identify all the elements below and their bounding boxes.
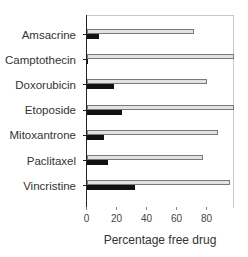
- bar-series-2: [87, 160, 108, 165]
- category-label: Paclitaxel: [27, 155, 76, 167]
- bar-series-2: [87, 110, 122, 115]
- x-tick: [176, 207, 177, 210]
- bar-chart: AmsacrineCamptothecinDoxorubicinEtoposid…: [0, 0, 248, 257]
- y-tick: [83, 110, 86, 111]
- y-tick: [83, 135, 86, 136]
- y-tick: [83, 185, 86, 186]
- x-axis-label: Percentage free drug: [104, 233, 217, 247]
- category-label: Doxorubicin: [15, 79, 76, 91]
- x-tick: [116, 207, 117, 210]
- x-tick-label: 80: [201, 213, 212, 224]
- x-tick-label: 20: [111, 213, 122, 224]
- bar-series-1: [87, 130, 218, 135]
- bar-series-2: [87, 185, 135, 190]
- x-tick-label: 40: [141, 213, 152, 224]
- bar-series-1: [87, 29, 194, 34]
- y-tick: [83, 84, 86, 85]
- bar-series-2: [87, 34, 99, 39]
- category-label: Camptothecin: [5, 54, 76, 66]
- bar-series-2: [87, 135, 104, 140]
- y-tick: [83, 34, 86, 35]
- bar-series-1: [87, 54, 234, 59]
- category-label: Etoposide: [25, 104, 76, 116]
- x-tick-label: 0: [84, 213, 90, 224]
- x-tick-label: 60: [171, 213, 182, 224]
- x-tick: [86, 207, 87, 210]
- x-tick: [206, 207, 207, 210]
- y-tick: [83, 59, 86, 60]
- y-tick: [83, 160, 86, 161]
- bar-series-2: [87, 84, 114, 89]
- x-tick: [146, 207, 147, 210]
- category-label: Vincristine: [23, 180, 76, 192]
- category-label: Amsacrine: [22, 29, 76, 41]
- bar-series-2: [87, 59, 88, 64]
- category-label: Mitoxantrone: [10, 129, 76, 141]
